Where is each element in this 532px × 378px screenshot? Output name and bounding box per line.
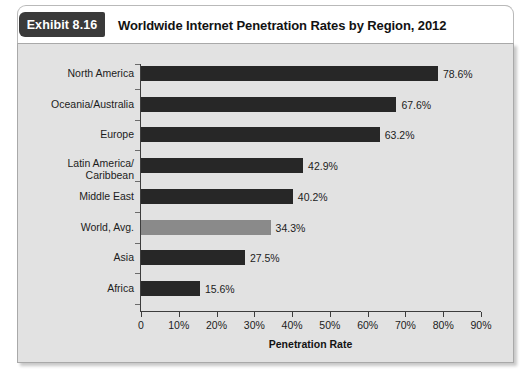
x-axis-tick-label: 60% [351, 319, 385, 331]
bar-value-label: 78.6% [443, 68, 473, 80]
x-axis-tick-label: 10% [162, 319, 196, 331]
bar-chart-plot-area: North America78.6%Oceania/Australia67.6%… [18, 44, 515, 364]
bar [141, 127, 380, 142]
bar-row: Oceania/Australia67.6% [18, 97, 515, 127]
x-axis-tick-label: 70% [388, 319, 422, 331]
x-axis-tick [217, 312, 218, 317]
bar-row: World, Avg.34.3% [18, 220, 515, 250]
x-axis-line [140, 311, 481, 312]
x-axis-tick [443, 312, 444, 317]
x-axis-tick [254, 312, 255, 317]
exhibit-card: Exhibit 8.16 Worldwide Internet Penetrat… [17, 5, 514, 363]
bar-value-label: 42.9% [308, 160, 338, 172]
x-axis-tick [368, 312, 369, 317]
bar-value-label: 63.2% [385, 129, 415, 141]
y-axis-tick [135, 64, 140, 65]
bar-category-label: World, Avg. [0, 221, 134, 233]
bar-row: Africa15.6% [18, 281, 515, 311]
x-axis-tick [179, 312, 180, 317]
bar-value-label: 34.3% [276, 222, 306, 234]
x-axis-tick-label: 20% [200, 319, 234, 331]
x-axis-tick [405, 312, 406, 317]
bar-value-label: 27.5% [250, 252, 280, 264]
bar-category-label: Middle East [0, 190, 134, 202]
bar-value-label: 67.6% [401, 99, 431, 111]
bar-value-label: 15.6% [205, 283, 235, 295]
bar-category-label: Latin America/Caribbean [0, 157, 134, 181]
chart-panel: North America78.6%Oceania/Australia67.6%… [17, 43, 514, 363]
bar [141, 189, 293, 204]
x-axis-title: Penetration Rate [140, 338, 481, 350]
exhibit-title: Worldwide Internet Penetration Rates by … [118, 6, 446, 44]
bar-category-label: Europe [0, 128, 134, 140]
x-axis-tick-label: 80% [426, 319, 460, 331]
bar [141, 281, 200, 296]
bar-row: North America78.6% [18, 66, 515, 96]
bar [141, 66, 438, 81]
bar-row: Latin America/Caribbean42.9% [18, 158, 515, 188]
bar-value-label: 40.2% [298, 191, 328, 203]
bar-row: Asia27.5% [18, 250, 515, 280]
x-axis-tick-label: 30% [237, 319, 271, 331]
x-axis-tick-label: 90% [464, 319, 498, 331]
bar-category-label: Asia [0, 251, 134, 263]
bar-category-label: Africa [0, 282, 134, 294]
x-axis-tick [141, 312, 142, 317]
x-axis-tick [481, 312, 482, 317]
x-axis-tick-label: 50% [313, 319, 347, 331]
x-axis-tick-label: 0 [124, 319, 158, 331]
exhibit-number-badge: Exhibit 8.16 [19, 12, 105, 37]
bar-category-label: North America [0, 67, 134, 79]
bar [141, 158, 303, 173]
bar [141, 220, 271, 235]
exhibit-header: Exhibit 8.16 Worldwide Internet Penetrat… [17, 5, 514, 43]
bar-row: Middle East40.2% [18, 189, 515, 219]
bar-category-label: Oceania/Australia [0, 98, 134, 110]
x-axis-tick-label: 40% [275, 319, 309, 331]
x-axis-tick [330, 312, 331, 317]
bar-row: Europe63.2% [18, 127, 515, 157]
bar [141, 250, 245, 265]
x-axis-tick [292, 312, 293, 317]
bar [141, 97, 396, 112]
